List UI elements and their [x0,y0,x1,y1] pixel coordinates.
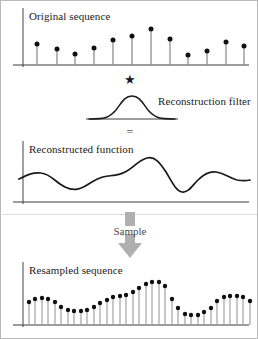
reconstruction-filter-label: Reconstruction filter [158,95,251,107]
reconstructed-waveform [19,158,250,192]
stem-group [35,27,247,66]
reconstruction-resampling-figure: Original sequence ★ Reconstruction filte… [0,0,258,339]
convolution-star-icon: ★ [1,73,258,86]
resampled-sequence-label: Resampled sequence [29,264,123,276]
sample-label: Sample [1,226,258,237]
original-sequence-label: Original sequence [29,10,110,22]
equals-sign-icon: = [1,126,258,138]
stem-group [27,280,252,325]
reconstructed-function-label: Reconstructed function [29,143,134,155]
